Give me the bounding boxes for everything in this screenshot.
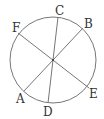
circle-diagram: C B F A D E <box>0 0 104 119</box>
label-f: F <box>12 21 20 35</box>
label-a: A <box>15 92 25 106</box>
label-b: B <box>84 17 93 31</box>
label-c: C <box>55 4 64 18</box>
label-d: D <box>43 105 53 119</box>
center-point <box>52 59 54 61</box>
label-e: E <box>89 87 98 101</box>
